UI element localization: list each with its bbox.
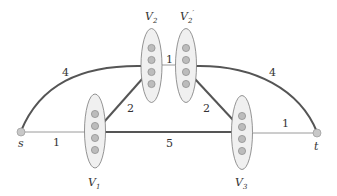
sink-label: t (314, 140, 319, 153)
node (238, 135, 245, 142)
weight-s-v2: 4 (62, 66, 69, 79)
v2-label: V2 (145, 10, 158, 25)
node (148, 56, 155, 63)
node (182, 80, 189, 87)
node (91, 122, 98, 129)
weight-v2-v2p: 1 (166, 53, 173, 66)
v3-label: V3 (235, 176, 248, 191)
weight-v1-v2: 2 (127, 102, 134, 115)
node (91, 134, 98, 141)
edge-v2p-v3 (195, 79, 234, 121)
node (148, 68, 155, 75)
node (148, 44, 155, 51)
weight-s-v1: 1 (53, 136, 60, 149)
node (91, 146, 98, 153)
node (182, 44, 189, 51)
node (238, 112, 245, 119)
v2-prime-label: V2′ (180, 9, 194, 25)
weight-v2p-v3: 2 (203, 102, 210, 115)
sink-node (313, 129, 321, 137)
weight-v2p-t: 4 (269, 66, 276, 79)
node (238, 123, 245, 130)
node (91, 110, 98, 117)
node (238, 147, 245, 154)
node (182, 56, 189, 63)
cluster-v1 (85, 94, 106, 168)
cluster-v2 (141, 29, 162, 103)
weight-v3-t: 1 (282, 117, 289, 130)
node (148, 80, 155, 87)
edge-v1-v2 (104, 78, 143, 122)
node (182, 68, 189, 75)
cluster-v3 (232, 96, 253, 170)
v1-label: V1 (88, 176, 100, 191)
source-label: s (18, 137, 24, 150)
flow-graph-diagram: s t V1 V2 V2′ V3 4 1 2 5 1 2 4 1 (0, 0, 337, 196)
cluster-v2-prime (176, 29, 197, 103)
weight-v1-v3: 5 (166, 137, 173, 150)
source-node (17, 128, 25, 136)
